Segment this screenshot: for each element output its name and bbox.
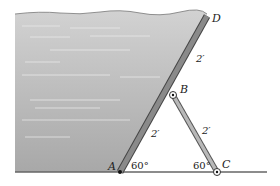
diagram-canvas: D B A C 2′ 2′ 2′ 60° 60° — [0, 0, 280, 186]
label-b: B — [179, 83, 188, 96]
dimension-bd: 2′ — [195, 53, 205, 64]
dimension-ab: 2′ — [150, 128, 160, 139]
label-a: A — [107, 160, 116, 173]
label-d: D — [211, 12, 221, 25]
pin-b-icon — [170, 92, 177, 99]
angle-a: 60° — [131, 160, 149, 171]
pin-a-icon — [118, 170, 122, 174]
label-c: C — [222, 158, 231, 171]
water-region — [15, 10, 207, 172]
dimension-bc: 2′ — [201, 125, 211, 136]
angle-c: 60° — [193, 160, 211, 171]
pin-c-icon — [214, 169, 221, 176]
